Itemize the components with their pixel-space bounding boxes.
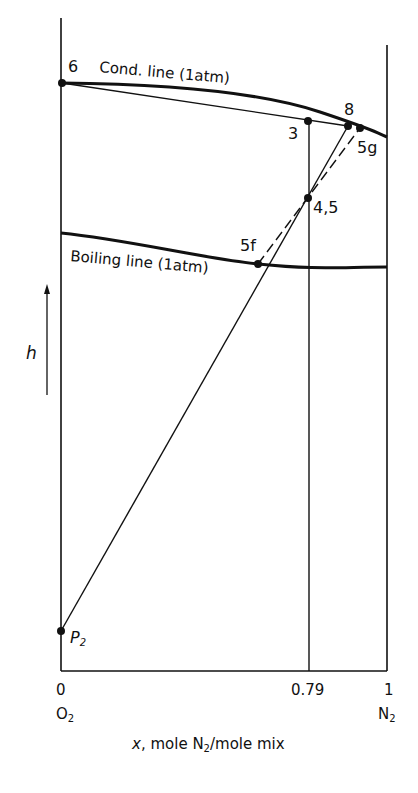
x-axis-suffix: /mole mix <box>210 735 285 753</box>
label-point-4-5: 4,5 <box>313 200 338 216</box>
n2-main: N <box>378 705 389 723</box>
diagram-canvas <box>0 0 418 793</box>
label-point-8: 8 <box>344 102 354 118</box>
o2-label: O2 <box>56 707 74 724</box>
h-arrow-head-icon <box>44 284 50 294</box>
y-axis-label: h <box>26 345 37 362</box>
n2-sub: 2 <box>389 713 395 724</box>
point-3 <box>304 117 312 125</box>
label-point-5f: 5f <box>240 238 256 254</box>
point-5f <box>254 260 262 268</box>
x-axis-var: x <box>132 735 141 753</box>
o2-main: O <box>56 705 68 723</box>
label-point-5g: 5g <box>357 140 377 156</box>
n2-label: N2 <box>378 707 396 724</box>
tick-1: 1 <box>384 683 394 698</box>
p2-main: P <box>70 628 80 647</box>
label-point-6: 6 <box>68 59 78 75</box>
point-4-5 <box>304 194 312 202</box>
point-6 <box>58 79 66 87</box>
tick-079: 0.79 <box>291 683 324 698</box>
p2-sub: 2 <box>80 637 86 648</box>
tick-0: 0 <box>56 683 66 698</box>
o2-sub: 2 <box>68 713 74 724</box>
x-axis-text: , mole N <box>141 735 204 753</box>
point-5g <box>356 124 364 132</box>
label-point-p2: P2 <box>70 630 86 648</box>
point-p2 <box>57 627 65 635</box>
x-axis-title: x, mole N2/mole mix <box>132 737 285 754</box>
point-8 <box>344 122 352 130</box>
condensation-curve <box>61 83 387 137</box>
label-point-3: 3 <box>288 126 298 142</box>
